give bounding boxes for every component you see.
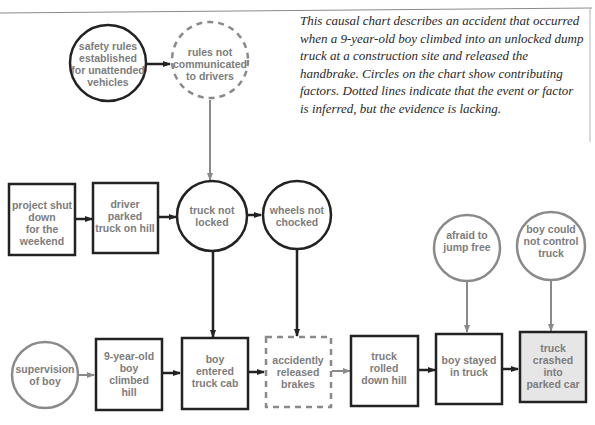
node-label-line: entered <box>196 365 234 377</box>
node-label-line: to drivers <box>186 70 234 82</box>
node-label-line: climbed <box>109 374 149 386</box>
node-label-line: truck on hill <box>95 222 155 234</box>
node-label-line: locked <box>195 216 228 228</box>
node-label-line: hill <box>121 386 136 398</box>
node-safety-rules: safety rules established for unattended … <box>70 25 146 101</box>
node-label-line: truck cab <box>192 377 239 389</box>
node-label-line: truck <box>538 247 564 259</box>
diagram-canvas: safety rules established for unattended … <box>0 0 595 425</box>
causal-chart: This causal chart describes an accident … <box>0 0 595 425</box>
node-boy-climbed-hill: 9-year-old boy climbed hill <box>96 339 162 410</box>
node-supervision-of-boy: supervision of boy <box>12 342 78 408</box>
node-label-line: driver <box>110 198 139 210</box>
node-label-line: jump free <box>442 241 490 253</box>
node-label-line: in truck <box>450 366 488 378</box>
node-label-line: for unattended <box>71 64 145 76</box>
node-wheels-not-chocked: wheels not chocked <box>263 181 331 249</box>
node-released-brakes: accidently released brakes <box>266 337 331 407</box>
node-label-line: brakes <box>281 378 315 390</box>
node-boy-could-not-control: boy could not control truck <box>517 212 585 280</box>
node-label-line: parked car <box>526 378 579 390</box>
node-label-line: weekend <box>19 235 64 247</box>
node-truck-not-locked: truck not locked <box>177 181 247 251</box>
node-boy-entered-cab: boy entered truck cab <box>182 338 248 409</box>
node-label-line: boy stayed <box>442 354 497 366</box>
node-boy-stayed: boy stayed in truck <box>436 334 502 404</box>
node-label-line: rolled <box>370 362 399 374</box>
node-label-line: safety rules <box>79 40 138 52</box>
node-label-line: of boy <box>29 375 61 387</box>
node-label-line: rules not <box>188 46 233 58</box>
nodes: safety rules established for unattended … <box>9 22 586 410</box>
node-label-line: parked <box>108 210 142 222</box>
node-label-line: boy <box>120 362 139 374</box>
node-label-line: released <box>277 366 320 378</box>
node-label-line: chocked <box>276 216 319 228</box>
node-label-line: truck not <box>190 204 235 216</box>
node-label-line: crashed <box>533 354 573 366</box>
node-label-line: project shut <box>12 199 73 211</box>
node-label-line: down hill <box>361 374 407 386</box>
node-label-line: for the <box>26 223 59 235</box>
node-truck-crashed: truck crashed into parked car <box>520 332 586 402</box>
node-label-line: accidently <box>272 354 324 366</box>
node-label-line: wheels not <box>269 204 325 216</box>
node-label-line: boy could <box>526 223 576 235</box>
node-afraid-to-jump: afraid to jump free <box>434 215 500 281</box>
node-label-line: supervision <box>16 363 75 375</box>
node-driver-parked: driver parked truck on hill <box>93 183 158 253</box>
node-rules-not-communicated: rules not communicated to drivers <box>172 22 248 98</box>
node-label-line: boy <box>206 353 225 365</box>
node-truck-rolled: truck rolled down hill <box>351 336 418 406</box>
node-label-line: established <box>79 52 137 64</box>
node-label-line: truck <box>540 342 566 354</box>
node-label-line: not control <box>524 235 579 247</box>
node-label-line: into <box>543 366 562 378</box>
node-label-line: 9-year-old <box>104 350 154 362</box>
node-label-line: afraid to <box>446 229 487 241</box>
node-label-line: down <box>28 211 55 223</box>
node-label-line: vehicles <box>87 76 129 88</box>
node-label-line: communicated <box>173 58 247 70</box>
node-label-line: truck <box>371 350 397 362</box>
node-project-shut-down: project shut down for the weekend <box>9 184 75 255</box>
